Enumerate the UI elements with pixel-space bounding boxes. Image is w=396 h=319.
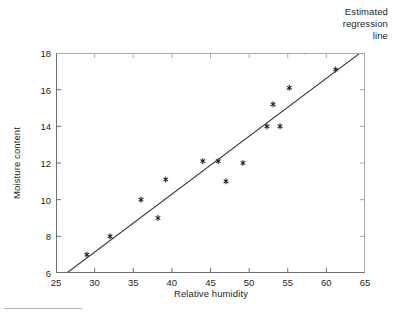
y-tick-label: 8: [46, 231, 51, 242]
x-tick-label: 45: [205, 277, 216, 288]
annotation-word-line: line: [268, 30, 388, 42]
data-point-marker: [241, 160, 246, 166]
x-tick-label: 55: [282, 277, 293, 288]
y-axis-label: Moisture content: [11, 127, 22, 199]
y-tick-label: 10: [40, 194, 51, 205]
data-point-marker: [302, 53, 307, 54]
x-tick-label: 60: [321, 277, 332, 288]
footer-rule: [4, 308, 82, 309]
data-point-marker: [108, 233, 113, 239]
data-point-marker: [200, 158, 205, 164]
plot-area: 681012141618 253035404550556065: [56, 53, 365, 273]
y-tick-label: 12: [40, 158, 51, 169]
y-tick-label: 16: [40, 84, 51, 95]
x-tick-label: 25: [51, 277, 62, 288]
data-point-marker: [139, 197, 144, 203]
x-tick-label: 35: [128, 277, 139, 288]
scatter-plot-figure: Estimated regression line Estimated regr…: [0, 0, 396, 319]
regression-line-annotation: Estimated regression line Estimated regr…: [268, 6, 388, 43]
data-point-marker: [156, 215, 161, 221]
y-axis-label-container: Moisture content: [8, 53, 24, 273]
data-point-marker: [287, 85, 292, 91]
data-point-marker: [224, 178, 229, 184]
x-tick-label: 30: [89, 277, 100, 288]
y-tick-label: 14: [40, 121, 51, 132]
data-point-marker: [278, 123, 283, 129]
data-point-marker: [271, 101, 276, 107]
plot-canvas: [56, 53, 365, 273]
x-tick-label: 40: [167, 277, 178, 288]
y-tick-label: 18: [40, 48, 51, 59]
data-point-marker: [163, 177, 168, 183]
x-tick-label: 50: [244, 277, 255, 288]
x-tick-label: 65: [360, 277, 371, 288]
x-axis-label: Relative humidity: [56, 288, 366, 299]
annotation-word-regression: regression: [268, 18, 388, 30]
annotation-word-estimated: Estimated: [268, 6, 388, 18]
